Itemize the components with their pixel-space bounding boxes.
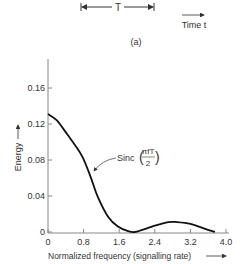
y-tick-label: 0.04 (27, 191, 45, 201)
x-tick-label: 0.8 (77, 237, 90, 247)
x-tick-label: 1.6 (113, 237, 126, 247)
x-tick-label: 3.2 (184, 237, 197, 247)
sinc-annotation: Sinc ( πfT 2 ) (94, 147, 160, 171)
svg-text:2: 2 (146, 159, 151, 168)
svg-text:πfT: πfT (142, 147, 155, 156)
time-axis-indicator: Time t (182, 15, 207, 30)
x-tick-label: 2.4 (149, 237, 162, 247)
time-label: Time t (182, 20, 207, 30)
period-label: T (115, 2, 121, 13)
x-tick-label: 0 (45, 237, 50, 247)
x-axis-label: Normalized frequency (signalling rate) (48, 251, 226, 261)
y-tick-label: 0.12 (27, 119, 45, 129)
y-tick-label: 0 (40, 227, 45, 237)
energy-curve (48, 114, 215, 232)
period-dimension: T (81, 2, 154, 13)
svg-text:): ) (155, 149, 160, 165)
svg-text:Energy: Energy (13, 142, 23, 171)
subfigure-label: (a) (131, 37, 142, 47)
x-tick-label: 4.0 (220, 237, 233, 247)
y-axis-label: Energy (13, 125, 23, 171)
svg-text:Normalized frequency (signalli: Normalized frequency (signalling rate) (48, 251, 191, 261)
annotation-leader-icon (94, 158, 116, 171)
chart-canvas: T Time t (a) 00.040.080.120.16 00.81.62.… (0, 0, 249, 264)
annotation-prefix: Sinc (117, 153, 135, 163)
y-tick-label: 0.08 (27, 155, 45, 165)
y-tick-label: 0.16 (27, 83, 45, 93)
y-axis: 00.040.080.120.16 (27, 59, 52, 237)
